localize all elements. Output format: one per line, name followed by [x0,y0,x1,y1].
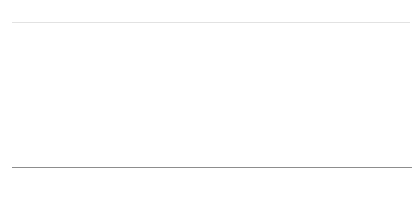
x-axis-tick-labels [0,170,418,182]
chart-page [0,0,418,202]
bar-group [0,23,418,167]
plot-area [0,22,418,168]
axis-baseline [12,167,412,168]
